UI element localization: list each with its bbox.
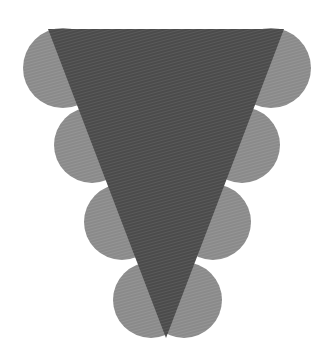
inverted-triangle-shape [48,29,284,338]
figure-canvas [0,0,328,360]
scalloped-triangle-figure [0,0,328,360]
